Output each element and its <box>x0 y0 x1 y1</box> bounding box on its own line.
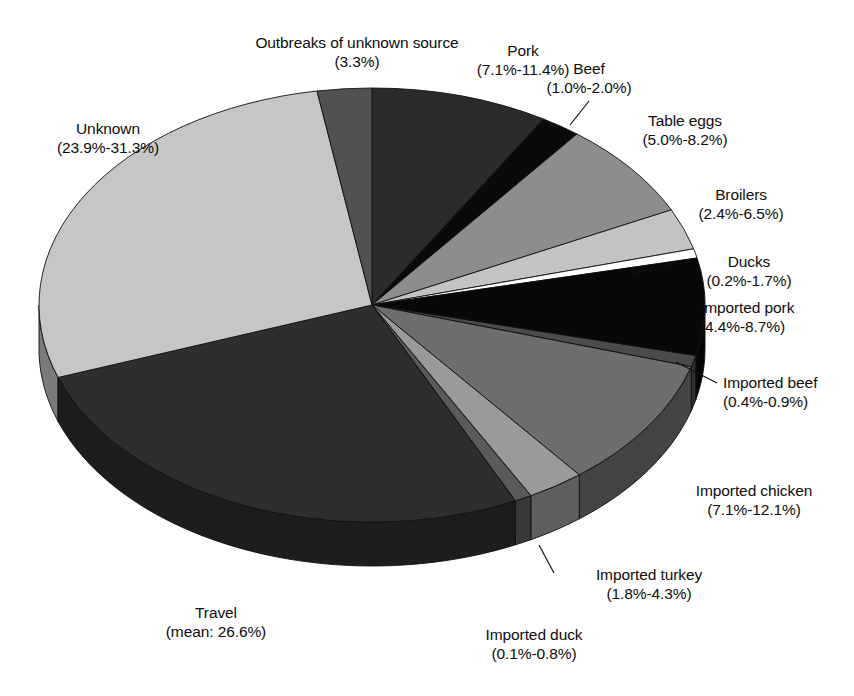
label-line1: Beef <box>530 59 648 78</box>
label-line2: (0.1%-0.8%) <box>448 644 620 663</box>
label-line1: Imported pork <box>700 298 850 317</box>
label-line2: (0.4%-0.9%) <box>723 392 854 411</box>
label-broilers: Broilers (2.4%-6.5%) <box>676 185 806 223</box>
label-line1: Imported duck <box>448 625 620 644</box>
label-line2: (1.0%-2.0%) <box>530 78 648 97</box>
label-line1: Outbreaks of unknown source <box>237 33 477 52</box>
label-imported-duck: Imported duck (0.1%-0.8%) <box>448 625 620 663</box>
label-ducks: Ducks (0.2%-1.7%) <box>684 252 814 290</box>
label-imported-beef: Imported beef (0.4%-0.9%) <box>723 373 854 411</box>
label-line1: Travel <box>130 603 302 622</box>
label-line1: Unknown <box>18 119 198 138</box>
label-line1: Imported turkey <box>563 565 735 584</box>
pie-chart-figure: Outbreaks of unknown source (3.3%) Pork … <box>0 0 854 696</box>
label-line1: Table eggs <box>620 111 750 130</box>
label-line1: Broilers <box>676 185 806 204</box>
label-line2: (3.3%) <box>237 52 477 71</box>
label-travel: Travel (mean: 26.6%) <box>130 603 302 641</box>
label-line2: (23.9%-31.3%) <box>18 138 198 157</box>
label-line1: Imported chicken <box>668 481 840 500</box>
label-line2: (5.0%-8.2%) <box>620 130 750 149</box>
label-line1: Imported beef <box>723 373 854 392</box>
label-imported-turkey: Imported turkey (1.8%-4.3%) <box>563 565 735 603</box>
label-imported-chicken: Imported chicken (7.1%-12.1%) <box>668 481 840 519</box>
label-line2: (4.4%-8.7%) <box>700 317 850 336</box>
label-imported-pork: Imported pork (4.4%-8.7%) <box>700 298 850 336</box>
label-line2: (0.2%-1.7%) <box>684 271 814 290</box>
label-line2: (mean: 26.6%) <box>130 622 302 641</box>
label-unknown: Unknown (23.9%-31.3%) <box>18 119 198 157</box>
label-line2: (7.1%-12.1%) <box>668 500 840 519</box>
label-outbreaks-of-unknown-source: Outbreaks of unknown source (3.3%) <box>237 33 477 71</box>
pie-side-imported-duck <box>515 496 531 545</box>
label-line1: Ducks <box>684 252 814 271</box>
label-line2: (1.8%-4.3%) <box>563 584 735 603</box>
label-line1: Pork <box>458 41 588 60</box>
label-table-eggs: Table eggs (5.0%-8.2%) <box>620 111 750 149</box>
label-beef: Beef (1.0%-2.0%) <box>530 59 648 97</box>
label-line2: (2.4%-6.5%) <box>676 204 806 223</box>
